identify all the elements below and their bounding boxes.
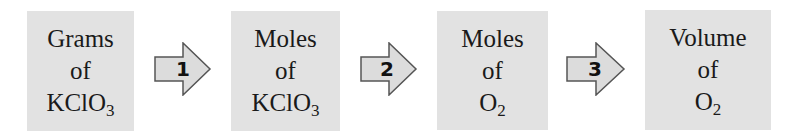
box-formula: KClO3 bbox=[251, 87, 319, 119]
box-line-1: Grams bbox=[47, 23, 114, 55]
box-line-2: of bbox=[70, 55, 91, 87]
box-line-1: Volume bbox=[669, 22, 746, 54]
step-number: 1 bbox=[176, 57, 190, 81]
step-box-grams-kclo3: Grams of KClO3 bbox=[27, 11, 134, 131]
box-formula: KClO3 bbox=[46, 87, 114, 119]
arrow-step-1: 1 bbox=[154, 42, 212, 96]
box-line-2: of bbox=[482, 55, 503, 87]
step-box-volume-o2: Volume of O2 bbox=[645, 10, 771, 130]
arrow-step-2: 2 bbox=[360, 42, 418, 96]
arrow-step-3: 3 bbox=[566, 42, 626, 96]
box-line-1: Moles bbox=[254, 23, 317, 55]
box-line-2: of bbox=[698, 54, 719, 86]
box-formula: O2 bbox=[695, 86, 722, 118]
step-box-moles-kclo3: Moles of KClO3 bbox=[231, 11, 340, 131]
step-box-moles-o2: Moles of O2 bbox=[437, 11, 548, 130]
box-line-2: of bbox=[275, 55, 296, 87]
step-number: 3 bbox=[588, 57, 602, 81]
step-number: 2 bbox=[380, 57, 394, 81]
box-line-1: Moles bbox=[461, 23, 524, 55]
box-formula: O2 bbox=[479, 87, 506, 119]
